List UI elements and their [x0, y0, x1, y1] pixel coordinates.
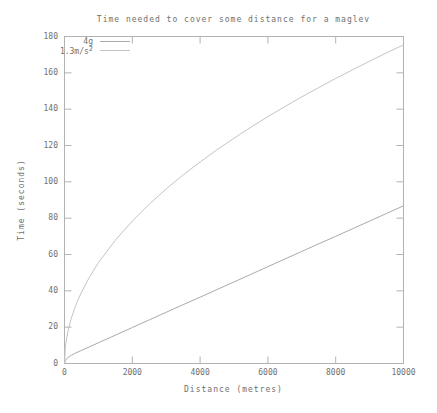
plot-border: [65, 37, 404, 364]
y-tick-label: 160: [18, 68, 58, 78]
legend: 4g 1.3m/s2: [50, 37, 130, 55]
y-tick-label: 120: [18, 141, 58, 151]
x-tick-label: 4000: [170, 368, 230, 378]
legend-entry-13ms2: 1.3m/s2: [50, 46, 130, 55]
legend-line-sample-4g: [100, 41, 130, 42]
x-tick-label: 8000: [306, 368, 366, 378]
y-tick-label: 40: [18, 286, 58, 296]
x-tick-label: 2000: [102, 368, 162, 378]
y-tick-label: 60: [18, 250, 58, 260]
x-tick-label: 0: [35, 368, 95, 378]
plot-window: Time needed to cover some distance for a…: [0, 0, 437, 413]
x-tick-label: 10000: [374, 368, 434, 378]
y-tick-label: 180: [18, 32, 58, 42]
y-tick-label: 20: [18, 322, 58, 332]
legend-line-sample-13ms2: [100, 50, 130, 51]
legend-label-13ms2: 1.3m/s2: [50, 44, 93, 57]
y-tick-label: 100: [18, 177, 58, 187]
series-line-0: [65, 206, 404, 364]
y-tick-label: 0: [18, 359, 58, 369]
x-axis-title: Distance (metres): [64, 385, 403, 395]
plot-canvas: [0, 0, 437, 413]
x-tick-label: 6000: [238, 368, 298, 378]
y-tick-label: 140: [18, 104, 58, 114]
y-axis-title: Time (seconds): [17, 140, 27, 260]
series-line-1: [65, 45, 404, 364]
y-tick-label: 80: [18, 213, 58, 223]
